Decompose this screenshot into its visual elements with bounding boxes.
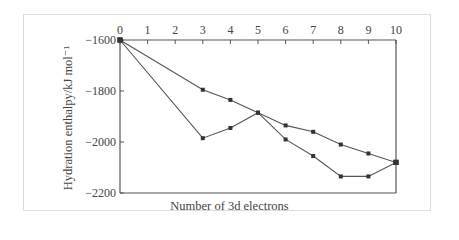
data-point-marker xyxy=(284,137,288,141)
axis-ticks: 012345678910−1600−1800−2000−2200 xyxy=(85,23,402,200)
series-line-lower xyxy=(120,40,396,176)
data-point-marker xyxy=(228,98,232,102)
x-tick-label: 6 xyxy=(283,23,289,37)
x-tick-label: 2 xyxy=(172,23,178,37)
data-series xyxy=(117,37,398,178)
x-axis-label: Number of 3d electrons xyxy=(0,199,459,214)
data-point-marker xyxy=(311,130,315,134)
y-tick-label: −1600 xyxy=(85,33,116,47)
axes xyxy=(120,40,396,193)
data-point-marker xyxy=(393,160,398,165)
y-tick-label: −1800 xyxy=(85,84,116,98)
data-point-marker xyxy=(311,154,315,158)
y-axis-label: Hydration enthalpy/kJ mol⁻¹ xyxy=(60,46,76,190)
x-tick-label: 9 xyxy=(365,23,371,37)
series-line-upper xyxy=(120,40,396,162)
x-tick-label: 5 xyxy=(255,23,261,37)
data-point-marker xyxy=(117,37,122,42)
data-point-marker xyxy=(284,123,288,127)
data-point-marker xyxy=(339,143,343,147)
data-point-marker xyxy=(366,151,370,155)
x-tick-label: 1 xyxy=(145,23,151,37)
x-tick-label: 0 xyxy=(117,23,123,37)
y-tick-label: −2000 xyxy=(85,135,116,149)
x-tick-label: 3 xyxy=(200,23,206,37)
data-point-marker xyxy=(366,174,370,178)
data-point-marker xyxy=(228,126,232,130)
data-point-marker xyxy=(201,88,205,92)
x-tick-label: 7 xyxy=(310,23,316,37)
data-point-marker xyxy=(201,136,205,140)
x-tick-label: 8 xyxy=(338,23,344,37)
y-tick-label: −2200 xyxy=(85,186,116,200)
x-tick-label: 4 xyxy=(227,23,233,37)
x-tick-label: 10 xyxy=(390,23,402,37)
data-point-marker xyxy=(339,174,343,178)
data-point-marker xyxy=(256,111,260,115)
